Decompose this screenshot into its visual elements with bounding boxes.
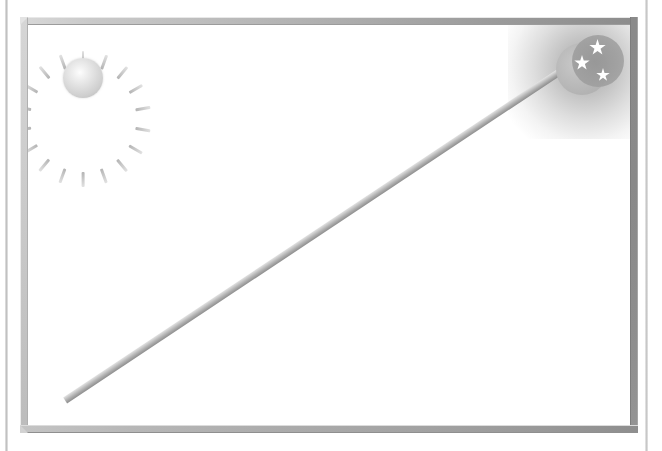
sun-ray-4	[128, 84, 142, 94]
sun-icon	[42, 37, 124, 119]
diagonal-divider	[63, 46, 597, 404]
sheet-left-edge	[5, 0, 8, 451]
sun-ray-16	[28, 84, 38, 94]
sun-ray-6	[135, 127, 150, 132]
sun-ray-11	[59, 168, 67, 183]
inner-field	[28, 25, 630, 425]
frame-corner-top-left	[20, 17, 28, 25]
outer-frame	[20, 17, 638, 433]
sun-ray-5	[135, 106, 150, 111]
sun-ray-7	[128, 144, 142, 154]
sun-ray-12	[38, 159, 50, 172]
sheet-right-edge	[645, 0, 648, 451]
sun-ray-10	[82, 172, 85, 187]
sun-ray-3	[116, 66, 128, 79]
frame-bar-top	[20, 17, 638, 25]
frame-bar-right	[630, 17, 638, 433]
frame-bar-bottom	[20, 425, 638, 433]
sun-ray-9	[100, 168, 108, 183]
sun-ray-13	[28, 144, 38, 154]
sun-ray-8	[116, 159, 128, 172]
diagram-canvas	[0, 0, 662, 451]
sun-ray-14	[28, 127, 31, 132]
sun-ray-15	[28, 106, 31, 111]
frame-bar-left	[20, 17, 28, 433]
sun-body	[63, 58, 103, 98]
frame-corner-bottom-left	[20, 425, 28, 433]
crescent-moon-icon	[552, 35, 622, 105]
sun-ray-2	[100, 55, 108, 70]
sun-ray-17	[38, 66, 50, 79]
